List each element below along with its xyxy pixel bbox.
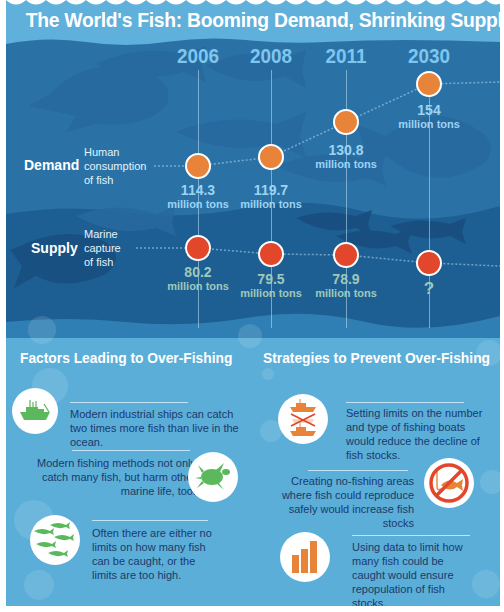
value-unit: million tons xyxy=(240,198,302,211)
fish-school-icon xyxy=(32,521,78,559)
strategy-text-2: Creating no-fishing areas where fish cou… xyxy=(268,474,414,530)
demand-desc-line: consumption xyxy=(84,160,146,172)
no-fishing-icon xyxy=(427,461,471,505)
value-unit: million tons xyxy=(167,280,229,293)
factor-text-2: Modern fishing methods not only catch ma… xyxy=(32,456,196,498)
demand-value-2008: 119.7 million tons xyxy=(240,183,302,211)
divider xyxy=(70,402,188,403)
value-number: 79.5 xyxy=(240,272,302,287)
supply-desc-line: capture xyxy=(84,242,121,254)
strategy-text-1: Setting limits on the number and type of… xyxy=(346,406,496,462)
factor-text-3: Often there are either no limits on how … xyxy=(92,526,212,582)
supply-point-2030 xyxy=(416,250,442,276)
value-number: 119.7 xyxy=(240,183,302,198)
strategy-icon-circle xyxy=(424,458,474,508)
bubble xyxy=(262,368,274,380)
value-unit: million tons xyxy=(398,118,460,131)
bar-chart-icon xyxy=(290,541,320,573)
year-label-2030: 2030 xyxy=(408,44,450,68)
demand-value-2006: 114.3 million tons xyxy=(167,183,229,211)
factor-text-1: Modern industrial ships can catch two ti… xyxy=(70,407,250,449)
strategy-icon-circle xyxy=(280,532,330,582)
demand-desc-line: Human xyxy=(84,146,119,158)
limit-boats-icon xyxy=(286,399,320,439)
value-unit: million tons xyxy=(240,287,302,300)
factors-title: Factors Leading to Over-Fishing xyxy=(20,349,232,366)
supply-value-2008: 79.5 million tons xyxy=(240,272,302,300)
divider xyxy=(308,470,408,471)
factor-icon-circle xyxy=(12,388,58,434)
factor-icon-circle xyxy=(188,452,238,502)
demand-point-2006 xyxy=(185,153,211,179)
supply-point-2006 xyxy=(185,235,211,261)
bubble xyxy=(28,316,56,344)
divider xyxy=(352,535,470,536)
sea-turtle-icon xyxy=(194,462,232,492)
bubble xyxy=(472,570,500,598)
bubble xyxy=(480,470,500,494)
value-number: 130.8 xyxy=(315,143,377,158)
supply-value-2030: ? xyxy=(424,281,434,296)
demand-point-2011 xyxy=(333,109,359,135)
value-number: 78.9 xyxy=(315,272,377,287)
value-number: 80.2 xyxy=(167,265,229,280)
value-unit: million tons xyxy=(315,158,377,171)
supply-value-2006: 80.2 million tons xyxy=(167,265,229,293)
demand-point-2008 xyxy=(258,144,284,170)
year-label-2011: 2011 xyxy=(325,44,366,68)
strategy-text-3: Using data to limit how many fish could … xyxy=(352,540,472,606)
demand-value-2011: 130.8 million tons xyxy=(315,143,377,171)
value-number: ? xyxy=(424,281,434,296)
year-label-2006: 2006 xyxy=(177,44,219,68)
demand-label: Demand xyxy=(24,157,79,173)
supply-point-2008 xyxy=(258,241,284,267)
supply-desc-line: Marine xyxy=(84,228,118,240)
fishing-ship-icon xyxy=(18,400,52,422)
strategy-icon-circle xyxy=(278,394,328,444)
value-unit: million tons xyxy=(315,287,377,300)
supply-label: Supply xyxy=(31,240,78,256)
demand-value-2030: 154 million tons xyxy=(398,103,460,131)
demand-point-2030 xyxy=(416,71,442,97)
value-unit: million tons xyxy=(167,198,229,211)
divider xyxy=(72,450,190,451)
supply-value-2011: 78.9 million tons xyxy=(315,272,377,300)
strategies-title: Strategies to Prevent Over-Fishing xyxy=(263,349,490,366)
demand-description: Human consumption of fish xyxy=(84,145,146,187)
value-number: 114.3 xyxy=(167,183,229,198)
bubble xyxy=(24,570,54,600)
bubble xyxy=(238,324,262,348)
divider xyxy=(346,402,464,403)
value-number: 154 xyxy=(398,103,460,118)
year-label-2008: 2008 xyxy=(250,44,292,68)
supply-desc-line: of fish xyxy=(84,256,113,268)
factor-icon-circle xyxy=(30,515,80,565)
supply-description: Marine capture of fish xyxy=(84,227,121,269)
infographic: The World's Fish: Booming Demand, Shrink… xyxy=(6,0,500,606)
supply-point-2011 xyxy=(333,242,359,268)
divider xyxy=(92,520,208,521)
demand-desc-line: of fish xyxy=(84,174,113,186)
